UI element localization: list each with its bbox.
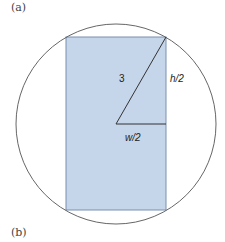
diagram-canvas: 3 h/2 w/2 bbox=[0, 0, 225, 242]
half-width-label: w/2 bbox=[125, 132, 141, 143]
half-height-label: h/2 bbox=[170, 73, 184, 84]
panel-label-b: (b) bbox=[11, 226, 27, 239]
radius-label: 3 bbox=[119, 73, 125, 84]
